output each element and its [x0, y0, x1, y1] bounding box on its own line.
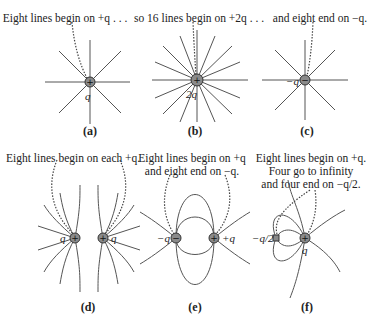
svg-text:−q: −q — [157, 232, 170, 244]
svg-text:q: q — [302, 244, 308, 256]
svg-text:−q: −q — [286, 75, 299, 87]
svg-text:q: q — [85, 90, 91, 102]
svg-text:−q/2: −q/2 — [252, 232, 274, 244]
svg-text:+: + — [86, 77, 94, 87]
panel-d-lines — [38, 185, 140, 292]
svg-text:−: − — [301, 75, 309, 85]
svg-text:+: + — [193, 75, 201, 85]
svg-text:+: + — [301, 233, 309, 243]
svg-text:q: q — [60, 232, 66, 244]
field-line-diagrams: ++− ++ −++ q 2q −q qq −q+q −q/2q — [0, 0, 372, 320]
svg-text:q: q — [111, 232, 117, 244]
svg-text:−: − — [172, 233, 180, 243]
svg-text:+: + — [71, 233, 79, 243]
svg-text:2q: 2q — [186, 88, 198, 100]
svg-text:+q: +q — [222, 232, 235, 244]
svg-text:+: + — [210, 233, 218, 243]
svg-text:+: + — [99, 233, 107, 243]
